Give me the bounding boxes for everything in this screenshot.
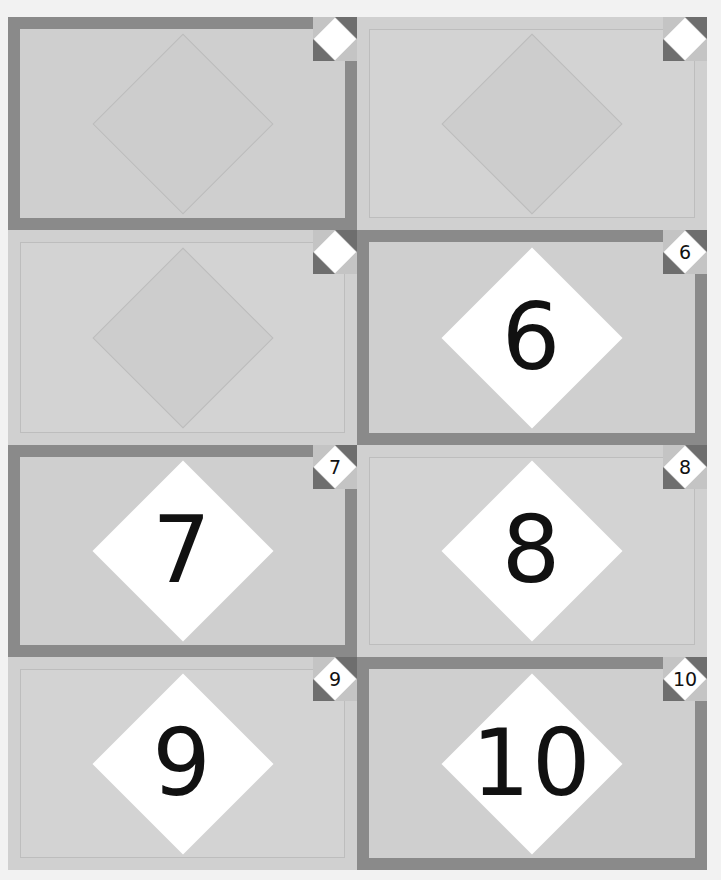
- card-back-diamond: [92, 247, 273, 428]
- card-8[interactable]: 10 10: [357, 657, 707, 870]
- card-6[interactable]: 8 8: [357, 445, 707, 657]
- badge-number: [313, 230, 357, 274]
- corner-badge: 7: [313, 445, 357, 489]
- card-number: 7: [152, 505, 213, 597]
- card-5[interactable]: 7 7: [8, 445, 357, 657]
- badge-number: [663, 17, 707, 61]
- corner-badge: 9: [313, 657, 357, 701]
- card-4[interactable]: 6 6: [357, 230, 707, 445]
- card-grid: 6 6 7 7 8 8 9: [8, 17, 707, 870]
- corner-badge: [663, 17, 707, 61]
- card-7[interactable]: 9 9: [8, 657, 357, 870]
- badge-number: 7: [313, 445, 357, 489]
- card-2[interactable]: [357, 17, 707, 230]
- card-back-diamond: [92, 33, 273, 214]
- badge-number: 8: [663, 445, 707, 489]
- corner-badge: [313, 17, 357, 61]
- card-number: 6: [502, 292, 563, 384]
- corner-badge: [313, 230, 357, 274]
- corner-badge: 10: [663, 657, 707, 701]
- badge-number: 10: [663, 657, 707, 701]
- card-number: 9: [152, 718, 213, 810]
- card-number: 8: [502, 505, 563, 597]
- badge-number: [313, 17, 357, 61]
- badge-number: 9: [313, 657, 357, 701]
- card-3[interactable]: [8, 230, 357, 445]
- card-1[interactable]: [8, 17, 357, 230]
- card-number: 10: [471, 718, 592, 810]
- corner-badge: 8: [663, 445, 707, 489]
- corner-badge: 6: [663, 230, 707, 274]
- card-back-diamond: [441, 33, 622, 214]
- badge-number: 6: [663, 230, 707, 274]
